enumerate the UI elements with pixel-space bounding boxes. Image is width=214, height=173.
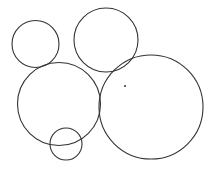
circle-large-right — [99, 55, 203, 159]
circles-diagram — [0, 0, 214, 173]
circle-top-left — [12, 21, 59, 68]
circle-bottom-small — [50, 128, 82, 160]
circle-middle-left — [18, 63, 101, 146]
center-dot — [124, 85, 126, 87]
circle-top-middle — [74, 8, 138, 72]
